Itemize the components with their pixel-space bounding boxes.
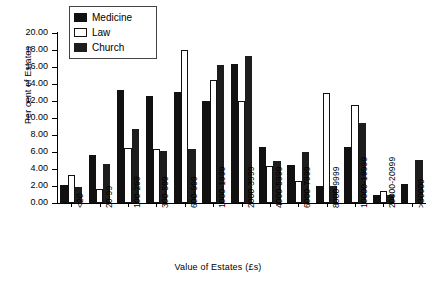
x-axis-tick-label: <20 — [75, 193, 85, 208]
y-axis-tick-label: 18.00 — [4, 45, 48, 54]
bar-law — [295, 181, 302, 203]
y-axis-tick-label: 8.00 — [4, 130, 48, 139]
x-axis-tick — [327, 203, 328, 207]
x-axis-tick-label: 100-299 — [132, 176, 142, 208]
chart-legend: MedicineLawChurch — [69, 6, 157, 59]
bar-law — [380, 191, 387, 203]
bar-group — [398, 33, 426, 203]
x-axis-tick — [242, 203, 243, 207]
x-axis-tick — [71, 203, 72, 207]
legend-swatch-medicine — [74, 13, 87, 22]
legend-item-law: Law — [74, 25, 152, 40]
bar-medicine — [174, 92, 181, 203]
x-axis-tick-label: 6000-7999 — [302, 166, 312, 208]
x-axis-tick — [156, 203, 157, 207]
x-axis-tick — [213, 203, 214, 207]
bar-law — [323, 93, 330, 204]
y-axis-tick — [52, 67, 57, 68]
y-axis-tick-label: 4.00 — [4, 164, 48, 173]
bar-law — [210, 80, 217, 203]
x-axis-tick-label: >30000 — [416, 179, 426, 208]
y-axis-tick-label: 14.00 — [4, 79, 48, 88]
legend-item-church: Church — [74, 40, 152, 55]
x-axis-tick-label: 600-999 — [189, 176, 199, 208]
y-axis-tick-label: 6.00 — [4, 147, 48, 156]
y-axis-tick — [52, 84, 57, 85]
bar-medicine — [259, 147, 266, 203]
bar-law — [266, 166, 273, 203]
x-axis-tick — [412, 203, 413, 207]
x-axis-tick-label: 20000-20999 — [387, 157, 397, 208]
bar-law — [124, 148, 131, 203]
y-axis-tick-label: 12.00 — [4, 96, 48, 105]
x-axis-tick — [100, 203, 101, 207]
bar-medicine — [287, 165, 294, 203]
x-axis-title: Value of Estates (£s) — [0, 262, 436, 272]
y-axis-tick — [52, 33, 57, 34]
y-axis-tick — [52, 50, 57, 51]
y-axis-tick — [52, 152, 57, 153]
y-axis-tick — [52, 118, 57, 119]
bar-law — [238, 101, 245, 203]
x-axis-tick-label: 8000-9999 — [331, 166, 341, 208]
x-axis-tick-label: 20-99 — [104, 186, 114, 208]
bar-law — [96, 189, 103, 203]
y-axis-tick — [52, 186, 57, 187]
bar-chart: Per cent of Estates 0.002.004.006.008.00… — [0, 0, 436, 285]
bar-medicine — [373, 195, 380, 204]
bar-law — [351, 105, 358, 203]
x-axis-tick — [128, 203, 129, 207]
x-axis-tick — [270, 203, 271, 207]
bar-medicine — [89, 155, 96, 203]
x-axis-tick-label: 10000-19999 — [359, 157, 369, 208]
y-axis-tick-label: 20.00 — [4, 28, 48, 37]
legend-label: Medicine — [92, 13, 132, 23]
y-axis-tick-labels: 0.002.004.006.008.0010.0012.0014.0016.00… — [0, 0, 48, 285]
y-axis-tick — [52, 135, 57, 136]
bar-medicine — [344, 147, 351, 203]
bar-medicine — [117, 90, 124, 203]
x-axis-tick — [355, 203, 356, 207]
y-axis-tick — [52, 203, 57, 204]
bar-medicine — [401, 184, 408, 203]
x-axis-tick — [185, 203, 186, 207]
y-axis-tick-label: 0.00 — [4, 198, 48, 207]
legend-swatch-law — [74, 28, 87, 37]
y-axis-tick — [52, 101, 57, 102]
bar-medicine — [231, 64, 238, 203]
bar-medicine — [146, 96, 153, 203]
bar-medicine — [202, 101, 209, 203]
legend-item-medicine: Medicine — [74, 10, 152, 25]
bar-medicine — [316, 186, 323, 203]
y-axis-tick-label: 2.00 — [4, 181, 48, 190]
x-axis-tick — [298, 203, 299, 207]
bar-law — [181, 50, 188, 203]
y-axis-tick — [52, 169, 57, 170]
bar-medicine — [60, 185, 67, 203]
legend-label: Church — [92, 43, 124, 53]
x-axis-tick-label: 1000-1999 — [217, 166, 227, 208]
x-axis-tick-label: 300-599 — [160, 176, 170, 208]
x-axis-tick — [383, 203, 384, 207]
legend-swatch-church — [74, 43, 87, 52]
bar-law — [68, 175, 75, 203]
x-axis-tick-label: 4000-5999 — [274, 166, 284, 208]
y-axis-tick-label: 10.00 — [4, 113, 48, 122]
x-axis-tick-label: 2000-3999 — [246, 166, 256, 208]
y-axis-tick-label: 16.00 — [4, 62, 48, 71]
legend-label: Law — [92, 28, 110, 38]
bar-law — [153, 149, 160, 203]
